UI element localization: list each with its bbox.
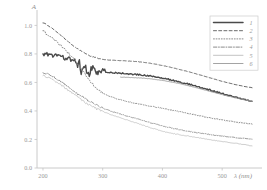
y-tick-label: 0.2 xyxy=(24,136,32,143)
absorbance-spectrum-chart: 0.00.20.40.60.81.0200300400500Aλ (nm) 12… xyxy=(0,0,267,190)
legend-label-2: 2 xyxy=(249,27,252,34)
y-tick-label: 0.4 xyxy=(24,107,32,114)
chart-canvas: 0.00.20.40.60.81.0200300400500Aλ (nm) 12… xyxy=(0,0,267,190)
x-tick-label: 200 xyxy=(38,172,47,179)
y-tick-label: 1.0 xyxy=(24,22,32,29)
legend-label-4: 4 xyxy=(249,43,252,50)
y-tick-label: 0.8 xyxy=(24,50,32,57)
x-tick-label: 400 xyxy=(158,172,167,179)
y-tick-label: 0.0 xyxy=(24,164,32,171)
series-line-6 xyxy=(121,77,252,101)
legend-layer: 123456 xyxy=(210,16,258,70)
legend-label-1: 1 xyxy=(249,19,252,26)
series-line-4 xyxy=(43,73,252,139)
y-tick-label: 0.6 xyxy=(24,79,32,86)
legend-label-3: 3 xyxy=(248,35,252,42)
y-axis-title: A xyxy=(31,3,37,11)
x-axis-title: λ (nm) xyxy=(233,172,253,180)
legend-label-5: 5 xyxy=(249,52,252,59)
x-tick-label: 300 xyxy=(98,172,107,179)
series-line-5 xyxy=(43,75,252,146)
x-tick-label: 500 xyxy=(218,172,227,179)
